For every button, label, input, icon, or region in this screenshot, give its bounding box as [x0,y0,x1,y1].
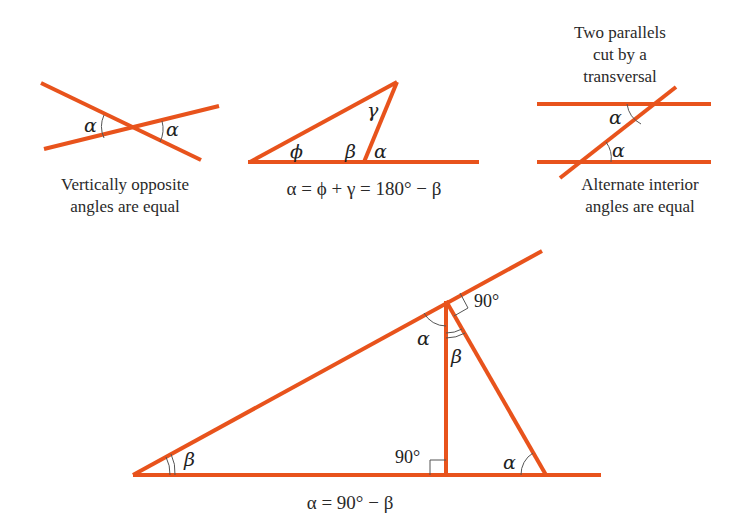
angle-arc-alpha-bottom [521,453,533,475]
angle-arc-beta-left-1 [166,457,170,475]
angle-label-alpha-top: α [609,106,622,128]
right-triangle-diagram: β α β 90° 90° α α = 90° − β [133,251,601,513]
title-line-3: transversal [583,67,657,86]
geometry-figure: α α Vertically opposite angles are equal… [0,0,753,530]
angle-label-phi: ϕ [290,140,303,162]
angle-label-90-foot: 90° [395,447,420,467]
angle-label-beta-top: β [450,345,462,367]
angle-arc-bottom [606,142,611,162]
caption-line-2: angles are equal [70,197,180,216]
exterior-angle-diagram: ϕ γ β α α = ϕ + γ = 180° − β [248,82,479,199]
exterior-angle-equation: α = ϕ + γ = 180° − β [287,178,442,199]
caption-line-2: angles are equal [585,197,695,216]
caption-line-1: Vertically opposite [61,175,189,194]
angle-label-alpha-right: α [166,118,179,140]
angle-arc-beta-top-1 [446,329,462,333]
right-triangle-equation: α = 90° − β [307,492,394,513]
angle-label-beta: β [344,140,356,162]
angle-arc-beta-top-2 [446,333,465,338]
angle-arc-beta-left-2 [171,454,175,475]
angle-label-alpha: α [374,140,387,162]
right-angle-marker-foot [430,460,446,475]
slanted-leg-line [446,301,546,475]
caption-line-1: Alternate interior [581,175,699,194]
title-line-1: Two parallels [574,23,666,42]
parallels-diagram: Two parallels cut by a transversal α α A… [537,23,711,216]
title-line-2: cut by a [593,45,647,64]
angle-label-90-top: 90° [474,291,499,311]
angle-label-alpha-left: α [84,114,97,136]
crossing-line-2 [44,106,219,149]
transversal-line [560,87,676,178]
vertical-angles-diagram: α α Vertically opposite angles are equal [41,83,219,216]
angle-label-beta-left: β [183,448,195,470]
angle-label-gamma: γ [367,99,379,121]
angle-label-alpha-bottom: α [503,451,516,473]
angle-label-alpha-top: α [417,327,430,349]
angle-label-alpha-bottom: α [612,139,625,161]
